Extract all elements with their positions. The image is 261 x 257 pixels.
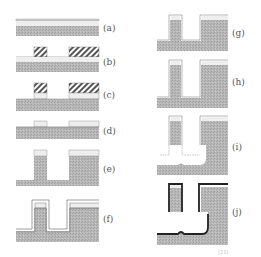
- step-i: (i): [157, 116, 242, 175]
- step-g: (g): [157, 15, 245, 51]
- label-c: (c): [103, 90, 115, 100]
- step-j: (j): [157, 184, 242, 245]
- label-j: (j): [232, 207, 242, 217]
- step-d: (d): [16, 121, 116, 139]
- process-flow-diagram: (a) (b) (c) (d) (e): [0, 0, 261, 257]
- step-h: (h): [157, 60, 245, 108]
- label-a: (a): [103, 23, 115, 33]
- caption-reference: [21]: [218, 249, 228, 255]
- label-e: (e): [103, 164, 115, 174]
- step-e: (e): [16, 150, 115, 186]
- label-d: (d): [103, 126, 116, 136]
- step-c: (c): [16, 83, 115, 111]
- label-g: (g): [232, 28, 245, 38]
- label-h: (h): [232, 77, 245, 87]
- step-a: (a): [16, 19, 115, 36]
- step-f: (f): [16, 200, 113, 242]
- label-b: (b): [103, 57, 116, 67]
- label-f: (f): [103, 214, 113, 224]
- label-i: (i): [232, 142, 242, 152]
- step-b: (b): [16, 47, 116, 72]
